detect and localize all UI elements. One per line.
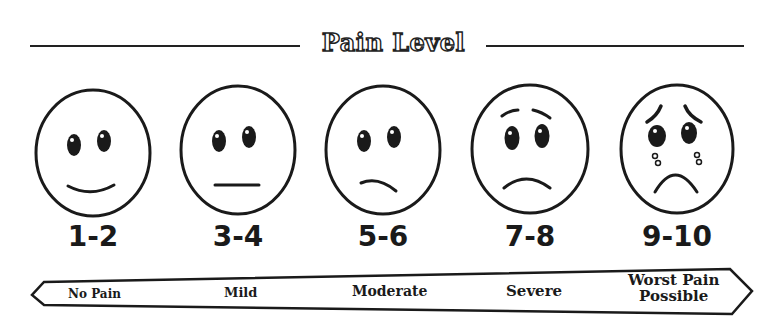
title-rule-left [30, 45, 300, 47]
scale-label-worst-line1: Worst Pain [628, 272, 719, 288]
crying-face-icon [617, 82, 737, 217]
score-label: 9-10 [617, 220, 737, 253]
scale-label-worst-pain: Worst Pain Possible [628, 272, 719, 304]
scale-label-mild: Mild [224, 285, 257, 300]
score-label: 5-6 [323, 220, 443, 253]
smile-face-icon [33, 88, 153, 218]
scale-label-moderate: Moderate [352, 283, 427, 299]
score-label: 1-2 [33, 220, 153, 253]
neutral-face-icon [178, 83, 298, 218]
score-label: 3-4 [178, 220, 298, 253]
title-rule-right [486, 45, 744, 47]
frown-face-icon [470, 82, 590, 217]
scale-label-severe: Severe [506, 282, 562, 300]
slight-frown-face-icon [323, 83, 443, 218]
score-label: 7-8 [470, 220, 590, 253]
scale-label-worst-line2: Possible [628, 288, 719, 304]
scale-label-no-pain: No Pain [68, 287, 121, 301]
page-title: Pain Level [306, 28, 481, 57]
